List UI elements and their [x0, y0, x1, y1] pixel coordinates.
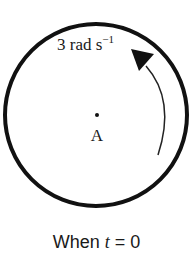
center-point — [95, 113, 99, 117]
center-label: A — [91, 126, 104, 145]
rotation-arrowhead-icon — [131, 49, 154, 71]
figure-caption: When t = 0 — [0, 232, 193, 253]
rotation-arc — [146, 66, 165, 155]
angular-velocity-label: 3 rad s−1 — [57, 33, 114, 54]
rotating-disc-diagram: A 3 rad s−1 — [0, 0, 193, 255]
